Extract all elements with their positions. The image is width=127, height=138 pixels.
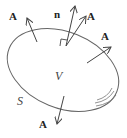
label-volume: V — [55, 69, 64, 83]
label-surface: S — [17, 94, 23, 108]
label-normal: n — [54, 8, 60, 20]
label-vector-bottom: A — [39, 118, 47, 130]
label-vector-top-left: A — [9, 10, 17, 22]
label-vector-top-right: A — [87, 10, 95, 22]
divergence-diagram: A n A A A V S — [0, 0, 127, 138]
label-vector-right: A — [101, 30, 109, 42]
shading-arcs — [95, 88, 116, 106]
